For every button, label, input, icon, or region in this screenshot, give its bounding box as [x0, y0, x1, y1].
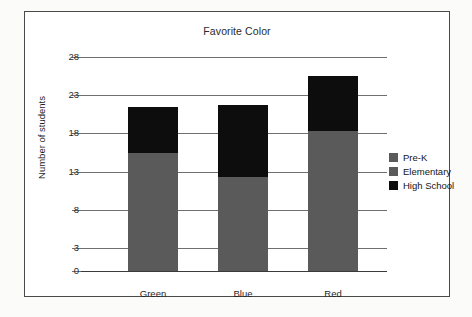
y-tick-label: 8 — [49, 204, 79, 215]
x-axis-label-green: Green — [108, 288, 198, 299]
gridline-0 — [81, 271, 387, 272]
y-tick-label: 23 — [49, 89, 79, 100]
legend-label: Pre-K — [403, 152, 427, 163]
chart-frame: Favorite Color Number of students 038131… — [24, 11, 450, 297]
legend-swatch-icon — [389, 181, 398, 190]
y-tick-label: 28 — [49, 51, 79, 62]
bar-green — [128, 42, 178, 271]
legend-item-high-school[interactable]: High School — [389, 178, 472, 192]
y-tick-label: 18 — [49, 127, 79, 138]
chart-title: Favorite Color — [25, 25, 449, 37]
y-axis-title: Number of students — [36, 78, 47, 198]
legend-label: Elementary — [403, 166, 451, 177]
bar-red — [308, 42, 358, 271]
legend-item-elementary[interactable]: Elementary — [389, 164, 472, 178]
x-axis-label-blue: Blue — [198, 288, 288, 299]
bar-segment-red-high-school — [308, 76, 358, 131]
bar-segment-green-high-school — [128, 107, 178, 154]
bar-blue — [218, 42, 268, 271]
bar-segment-green-elementary — [128, 153, 178, 271]
bar-segment-blue-high-school — [218, 105, 268, 177]
y-tick-label: 3 — [49, 242, 79, 253]
plot-area: 03813182328 GreenBlueRed — [81, 42, 381, 282]
legend-swatch-icon — [389, 153, 398, 162]
legend-swatch-icon — [389, 167, 398, 176]
x-axis-label-red: Red — [288, 288, 378, 299]
y-tick-label: 0 — [49, 265, 79, 276]
legend-item-pre-k[interactable]: Pre-K — [389, 150, 472, 164]
page-background: Favorite Color Number of students 038131… — [0, 0, 472, 317]
y-tick-label: 13 — [49, 166, 79, 177]
bar-segment-blue-elementary — [218, 177, 268, 271]
legend: Pre-KElementaryHigh School — [389, 150, 472, 192]
legend-label: High School — [403, 180, 454, 191]
bar-segment-red-elementary — [308, 131, 358, 271]
